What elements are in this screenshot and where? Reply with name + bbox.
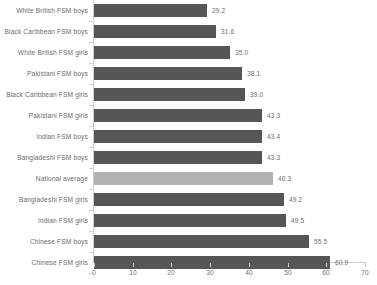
x-axis-tick: [365, 263, 366, 267]
bar-value-label: 49.5: [291, 210, 304, 231]
x-axis-tick: [133, 263, 134, 267]
category-label: Bangladeshi FSM boys: [0, 147, 88, 168]
category-label: White British FSM boys: [0, 0, 88, 21]
category-label: Chinese FSM girls: [0, 252, 88, 273]
bar-row: Chinese FSM boys55.5: [0, 231, 377, 252]
category-label: Chinese FSM boys: [0, 231, 88, 252]
category-label: Bangladeshi FSM girls: [0, 189, 88, 210]
bar-chart: White British FSM boys29.2Black Caribbea…: [0, 0, 377, 285]
bar-value-label: 43.3: [267, 105, 280, 126]
bar-row: Pakistani FSM girls43.3: [0, 105, 377, 126]
bar-value-label: 49.2: [289, 189, 302, 210]
bar: [94, 130, 262, 143]
x-axis-tick: [288, 263, 289, 267]
category-label: White British FSM girls: [0, 42, 88, 63]
bar-row: White British FSM girls35.0: [0, 42, 377, 63]
bar: [94, 4, 207, 17]
bar-row: Black Caribbean FSM girls39.0: [0, 84, 377, 105]
category-label: Black Caribbean FSM girls: [0, 84, 88, 105]
bar: [94, 193, 284, 206]
x-axis-tick-label: 50: [278, 269, 298, 276]
bar-row: Indian FSM girls49.5: [0, 210, 377, 231]
bar: [94, 235, 309, 248]
bar-value-label: 55.5: [314, 231, 327, 252]
x-axis-tick: [326, 263, 327, 267]
bar: [94, 88, 245, 101]
x-axis-tick: [171, 263, 172, 267]
x-axis-tick-label: 30: [200, 269, 220, 276]
category-label: Pakistani FSM boys: [0, 63, 88, 84]
bar: [94, 46, 230, 59]
bar-row: National average46.3: [0, 168, 377, 189]
bar: [94, 214, 286, 227]
bar-value-label: 46.3: [278, 168, 291, 189]
x-axis-tick: [249, 263, 250, 267]
bar-value-label: 39.0: [250, 84, 263, 105]
bar: [94, 25, 216, 38]
x-axis-tick-label: 10: [123, 269, 143, 276]
bar-value-label: 31.6: [221, 21, 234, 42]
bar-row: Bangladeshi FSM girls49.2: [0, 189, 377, 210]
bar: [94, 67, 242, 80]
bar-value-label: 38.1: [247, 63, 260, 84]
bar-row: Black Caribbean FSM boys31.6: [0, 21, 377, 42]
bar-value-label: 35.0: [235, 42, 248, 63]
bar: [94, 256, 330, 269]
bar: [94, 151, 262, 164]
bar-row: Bangladeshi FSM boys43.3: [0, 147, 377, 168]
bar-value-label: 60.9: [335, 252, 348, 273]
bar-row: Indian FSM boys43.4: [0, 126, 377, 147]
bar-value-label: 43.3: [267, 147, 280, 168]
category-label: Pakistani FSM girls: [0, 105, 88, 126]
x-axis-tick: [94, 263, 95, 267]
category-label: Indian FSM boys: [0, 126, 88, 147]
category-label: Black Caribbean FSM boys: [0, 21, 88, 42]
bar-value-label: 43.4: [267, 126, 280, 147]
x-axis-tick-label: 20: [161, 269, 181, 276]
x-axis-tick-label: 60: [316, 269, 336, 276]
bar-value-label: 29.2: [212, 0, 225, 21]
plot-area: White British FSM boys29.2Black Caribbea…: [0, 0, 377, 285]
x-axis-tick-label: 70: [355, 269, 375, 276]
category-label: Indian FSM girls: [0, 210, 88, 231]
x-axis-tick-label: 0: [84, 269, 104, 276]
category-label: National average: [0, 168, 88, 189]
x-axis-tick-label: 40: [239, 269, 259, 276]
bar-row: Pakistani FSM boys38.1: [0, 63, 377, 84]
bar-row: White British FSM boys29.2: [0, 0, 377, 21]
bar: [94, 172, 273, 185]
bar: [94, 109, 262, 122]
x-axis-tick: [210, 263, 211, 267]
